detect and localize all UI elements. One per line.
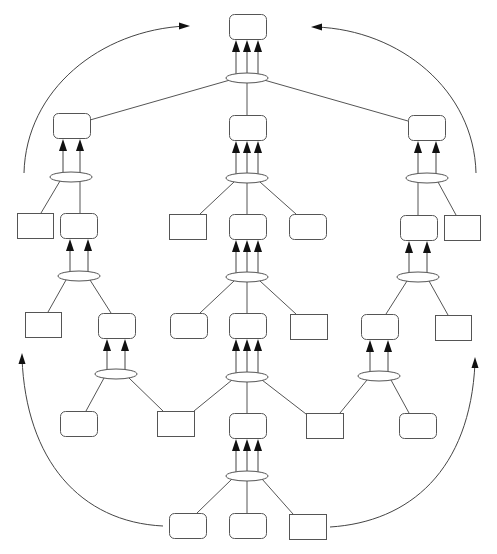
curve-bottom-right xyxy=(330,363,475,527)
edge-line xyxy=(262,380,306,414)
arrowhead-icon xyxy=(243,40,251,52)
arrowhead-icon xyxy=(414,141,422,153)
arrowhead-icon xyxy=(432,141,440,153)
rect-node xyxy=(445,216,481,241)
rounded-node xyxy=(61,214,98,239)
arrowhead-icon xyxy=(254,240,262,252)
arrowhead-icon xyxy=(384,340,392,352)
arrowhead-icon xyxy=(232,339,240,351)
arrowhead-icon xyxy=(121,339,129,351)
arrowhead-icon xyxy=(232,240,240,252)
hub-arrows xyxy=(59,40,440,472)
hub-ellipse xyxy=(226,73,268,83)
hub-ellipse xyxy=(58,271,100,281)
edge-line xyxy=(90,280,111,313)
arrowhead-icon xyxy=(232,40,240,52)
arrowhead-icon xyxy=(254,40,262,52)
rounded-node xyxy=(61,412,98,437)
edge-line xyxy=(340,380,367,413)
arrowhead-icon xyxy=(76,139,84,151)
curve-top-right xyxy=(316,27,476,173)
rounded-node xyxy=(230,215,267,240)
arrowhead-icon xyxy=(232,141,240,153)
arrowhead-icon xyxy=(243,141,251,153)
arrowhead-icon xyxy=(232,439,240,451)
rounded-node xyxy=(171,314,208,339)
hub-ellipse xyxy=(226,173,268,183)
arrowhead-icon xyxy=(423,241,431,253)
edge-line xyxy=(86,378,104,411)
rect-node xyxy=(436,316,472,341)
arrowhead-icon xyxy=(59,139,67,151)
hub-ellipse xyxy=(226,372,268,382)
hub-ellipse xyxy=(95,369,137,379)
hub-ellipse xyxy=(397,272,439,282)
rounded-node xyxy=(290,215,327,240)
rect-node xyxy=(158,412,195,437)
rect-node xyxy=(291,315,328,340)
rounded-node xyxy=(230,514,267,539)
edge-line xyxy=(197,479,232,513)
rounded-node xyxy=(409,116,446,141)
curve-bottom-left xyxy=(22,358,163,526)
rect-node xyxy=(170,215,207,240)
arrowhead-icon xyxy=(254,439,262,451)
rounded-node xyxy=(54,114,91,139)
edge-line xyxy=(438,182,456,215)
arrowhead-icon xyxy=(405,241,413,253)
arrowhead-icon xyxy=(366,340,374,352)
arrowhead-icon xyxy=(243,240,251,252)
edge-line xyxy=(262,479,293,514)
edge-line xyxy=(386,281,407,314)
hub-ellipse xyxy=(50,172,92,182)
edge-line xyxy=(200,281,234,313)
edge-line xyxy=(194,380,232,411)
rounded-node xyxy=(170,514,207,539)
rounded-node xyxy=(230,314,267,339)
arrowhead-icon xyxy=(254,141,262,153)
arrowhead-icon xyxy=(103,339,111,351)
arrowhead-icon xyxy=(243,439,251,451)
edge-line xyxy=(264,80,408,121)
rect-node xyxy=(18,214,54,239)
hub-ellipse xyxy=(358,371,400,381)
edge-line xyxy=(260,182,296,214)
hub-ellipse xyxy=(406,173,448,183)
edge-line xyxy=(200,182,234,214)
arrowhead-icon xyxy=(243,339,251,351)
arrowhead-icon xyxy=(84,239,92,251)
edge-line xyxy=(48,280,66,312)
arrowhead-icon xyxy=(472,357,479,368)
rounded-node xyxy=(362,315,399,340)
hub-ellipse xyxy=(226,471,268,481)
rect-node xyxy=(290,515,327,540)
rect-node xyxy=(26,313,62,338)
rounded-node xyxy=(230,116,267,141)
rounded-node xyxy=(401,216,438,241)
rect-node xyxy=(307,414,344,439)
edge-line xyxy=(90,80,230,120)
rounded-node xyxy=(400,414,437,439)
edge-line xyxy=(41,181,60,213)
rounded-node xyxy=(230,15,267,40)
edge-line xyxy=(391,380,409,413)
arrowhead-icon xyxy=(254,339,262,351)
arrowhead-icon xyxy=(19,353,26,364)
edge-line xyxy=(129,378,163,411)
arrowhead-icon xyxy=(66,239,74,251)
hub-ellipse xyxy=(226,272,268,282)
arrowhead-icon xyxy=(179,23,190,30)
edge-line xyxy=(429,281,448,315)
edge-line xyxy=(260,281,296,314)
rounded-node xyxy=(99,314,136,339)
rounded-node xyxy=(230,414,267,439)
arrowhead-icon xyxy=(311,24,322,31)
hierarchy-diagram xyxy=(0,0,497,554)
